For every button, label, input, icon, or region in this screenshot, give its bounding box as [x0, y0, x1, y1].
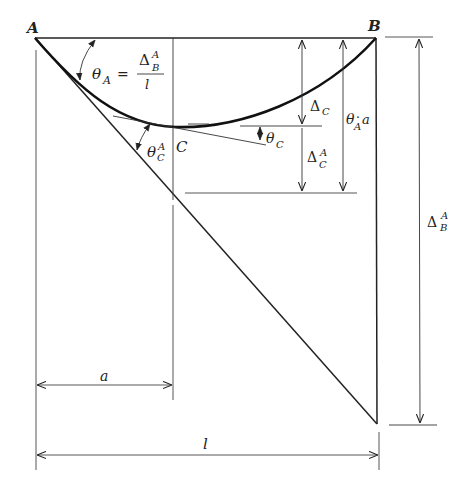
svg-text:l: l	[145, 77, 149, 92]
svg-text:θ: θ	[266, 130, 275, 146]
beam-deflection-diagram: A B C θ A = Δ A B l θ A C θ C Δ C Δ A C …	[0, 0, 469, 495]
svg-text:Δ: Δ	[310, 98, 320, 114]
dim-l-label: l	[203, 435, 208, 453]
vertical-b	[376, 38, 377, 424]
delta-c-label: Δ C	[310, 98, 330, 117]
svg-text:C: C	[276, 139, 284, 150]
tangent-at-c	[113, 116, 266, 145]
svg-text:C: C	[319, 159, 327, 170]
theta-a-formula: θ A = Δ A B l	[92, 49, 164, 92]
svg-text:B: B	[151, 62, 159, 73]
svg-text:Δ: Δ	[427, 214, 437, 230]
theta-c-a-label: θ A C	[147, 141, 165, 163]
label-b-point: B	[367, 17, 381, 35]
svg-text:C: C	[322, 106, 330, 117]
delta-b-a-label: Δ A B	[427, 210, 448, 233]
dim-a-label: a	[100, 368, 108, 384]
svg-text:C: C	[157, 152, 165, 163]
theta-c-label: θ C	[266, 130, 284, 150]
svg-text:A: A	[440, 210, 448, 221]
label-a-point: A	[25, 19, 39, 37]
svg-text:Δ: Δ	[307, 149, 317, 165]
svg-text:A: A	[157, 141, 165, 152]
delta-c-a-label: Δ A C	[307, 147, 327, 170]
svg-text:A: A	[102, 74, 111, 87]
svg-text:Δ: Δ	[139, 51, 150, 69]
svg-text:·: ·	[356, 111, 360, 125]
svg-text:a: a	[362, 112, 370, 127]
svg-text:=: =	[117, 66, 129, 82]
thetaA-a-label: θ A · a	[346, 111, 370, 132]
tangent-at-a	[35, 38, 377, 424]
svg-text:θ: θ	[147, 143, 156, 161]
label-c-point: C	[176, 138, 188, 156]
svg-text:θ: θ	[92, 65, 101, 83]
dim-delta-b-a	[419, 39, 420, 423]
svg-text:A: A	[151, 49, 159, 60]
svg-text:A: A	[319, 147, 327, 158]
svg-text:B: B	[439, 222, 447, 233]
